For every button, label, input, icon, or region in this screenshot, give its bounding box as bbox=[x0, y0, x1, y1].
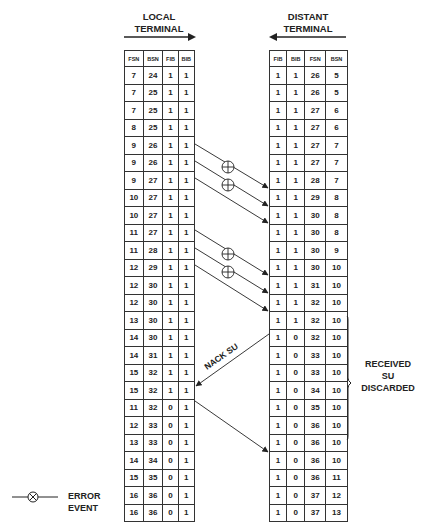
legend-line1: ERROR bbox=[68, 490, 101, 502]
signal-arrows-overlay: NACK SU bbox=[0, 0, 424, 529]
legend-label: ERROR EVENT bbox=[68, 490, 101, 514]
legend-line2: EVENT bbox=[68, 502, 101, 514]
received-su-discarded-note: RECEIVED SU DISCARDED bbox=[353, 358, 423, 394]
nack-label: NACK SU bbox=[202, 341, 239, 371]
local-direction-arrow-icon bbox=[124, 33, 196, 41]
distant-direction-arrow-icon bbox=[269, 33, 346, 41]
discarded-line3: DISCARDED bbox=[353, 382, 423, 394]
discarded-line1: RECEIVED bbox=[353, 358, 423, 370]
error-event-icon bbox=[222, 161, 234, 173]
discarded-line2: SU bbox=[353, 370, 423, 382]
error-event-legend-icon bbox=[12, 492, 58, 502]
discarded-bracket-icon bbox=[347, 316, 351, 440]
error-event-icon bbox=[222, 179, 234, 191]
retransmission-arrow bbox=[195, 401, 268, 452]
error-event-icon bbox=[222, 266, 234, 278]
error-event-icon bbox=[222, 248, 234, 260]
